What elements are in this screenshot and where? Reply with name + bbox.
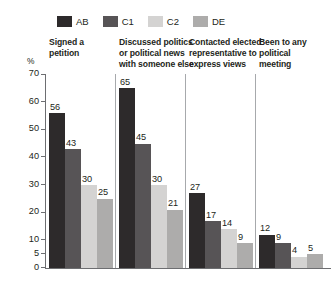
- y-tick-mark: [41, 156, 45, 157]
- bar-value-label: 21: [168, 198, 178, 208]
- bar-value-label: 14: [222, 218, 232, 228]
- bar-c2-group-1: [81, 185, 97, 268]
- bar-value-label: 12: [260, 223, 270, 233]
- bar-de-group-1: [97, 199, 113, 268]
- bar-c1-group-2: [135, 144, 151, 268]
- bar-ab-group-2: [119, 88, 135, 268]
- bar-value-label: 65: [120, 77, 130, 87]
- y-tick-label: 70: [29, 69, 39, 78]
- y-tick-mark: [41, 74, 45, 75]
- bar-chart: AB C1 C2 DE Signed apetitionDiscussed po…: [0, 0, 336, 282]
- bar-c1-group-1: [65, 149, 81, 268]
- group-divider: [185, 74, 186, 268]
- bar-value-label: 25: [98, 187, 108, 197]
- group-divider: [115, 74, 116, 268]
- bar-c2-group-3: [221, 229, 237, 268]
- y-tick-label: 60: [29, 97, 39, 106]
- bar-value-label: 45: [136, 132, 146, 142]
- y-tick-mark: [41, 101, 45, 102]
- y-tick-label: 10: [29, 235, 39, 244]
- y-tick-mark: [41, 267, 45, 268]
- bar-de-group-4: [307, 254, 323, 268]
- bar-de-group-2: [167, 210, 183, 268]
- plot-area: 0510203040506070564330256545302127171491…: [0, 0, 336, 282]
- y-tick-label: 30: [29, 180, 39, 189]
- bar-c1-group-3: [205, 221, 221, 268]
- group-divider: [255, 74, 256, 268]
- y-tick-label: 0: [34, 263, 39, 272]
- y-tick-mark: [41, 129, 45, 130]
- bar-c1-group-4: [275, 243, 291, 268]
- bar-c2-group-4: [291, 257, 307, 268]
- y-tick-label: 5: [34, 249, 39, 258]
- bar-ab-group-4: [259, 235, 275, 268]
- bar-value-label: 17: [206, 210, 216, 220]
- bar-value-label: 9: [276, 232, 281, 242]
- bar-value-label: 4: [292, 245, 297, 255]
- y-tick-mark: [41, 253, 45, 254]
- bar-value-label: 9: [238, 232, 243, 242]
- bar-value-label: 43: [66, 138, 76, 148]
- y-tick-mark: [41, 184, 45, 185]
- y-tick-label: 40: [29, 152, 39, 161]
- bar-value-label: 5: [308, 243, 313, 253]
- bar-de-group-3: [237, 243, 253, 268]
- bar-ab-group-3: [189, 193, 205, 268]
- y-tick-mark: [41, 239, 45, 240]
- bar-value-label: 30: [152, 174, 162, 184]
- y-tick-label: 50: [29, 124, 39, 133]
- y-tick-mark: [41, 212, 45, 213]
- y-tick-label: 20: [29, 207, 39, 216]
- bar-ab-group-1: [49, 113, 65, 268]
- bar-value-label: 56: [50, 102, 60, 112]
- bar-value-label: 27: [190, 182, 200, 192]
- bar-c2-group-2: [151, 185, 167, 268]
- bar-value-label: 30: [82, 174, 92, 184]
